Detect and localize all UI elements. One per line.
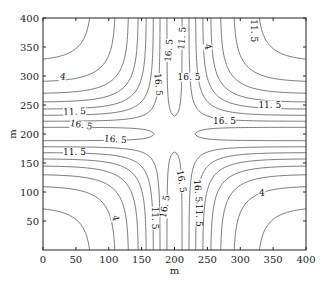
contour-line <box>43 18 306 250</box>
y-tick-label: 400 <box>20 13 39 24</box>
y-tick-label: 50 <box>26 216 39 227</box>
contour-line <box>43 18 306 250</box>
contour-label: 4 <box>259 188 265 198</box>
contour-label: 11. 5 <box>63 106 87 117</box>
contour-labels: 411. 516. 516. 511. 516. 511. 516. 5411.… <box>58 19 281 230</box>
contour-lines <box>43 18 306 250</box>
contour-chart: 411. 516. 516. 511. 516. 511. 516. 5411.… <box>0 0 327 283</box>
contour-label: 16. 5 <box>153 73 165 97</box>
contour-label: 16. 5 <box>178 72 201 82</box>
y-tick-label: 200 <box>20 129 39 140</box>
x-tick-label: 150 <box>132 254 151 265</box>
contour-label: 11. 5 <box>258 100 281 110</box>
contour-label: 16. 5 <box>163 38 175 62</box>
contour-label: 16. 5 <box>175 169 189 194</box>
plot-frame <box>43 18 306 250</box>
x-tick-label: 100 <box>99 254 118 265</box>
x-tick-label: 50 <box>70 254 83 265</box>
contour-label: 16. 5 <box>192 179 204 203</box>
x-axis-ticks: 050100150200250300350400 <box>40 18 316 265</box>
contour-label: 11. 5 <box>194 204 204 227</box>
x-tick-label: 200 <box>165 254 184 265</box>
x-tick-label: 350 <box>264 254 283 265</box>
contour-line <box>43 18 306 250</box>
contour-label: 16. 5 <box>158 194 172 219</box>
x-tick-label: 300 <box>231 254 250 265</box>
contour-line <box>43 18 306 250</box>
y-tick-label: 250 <box>20 100 39 111</box>
y-tick-label: 150 <box>20 158 39 169</box>
contour-line <box>43 18 306 250</box>
contour-label: 11. 5 <box>176 26 188 50</box>
contour-label: 11. 5 <box>249 19 259 42</box>
contour-label: 16. 5 <box>104 133 128 145</box>
contour-line <box>43 18 306 250</box>
contour-line <box>43 18 306 250</box>
y-axis-label: m <box>7 129 18 139</box>
y-tick-label: 300 <box>20 71 39 82</box>
y-tick-label: 350 <box>20 42 39 53</box>
x-tick-label: 0 <box>40 254 46 265</box>
x-tick-label: 400 <box>296 254 315 265</box>
contour-label: 16. 5 <box>213 116 236 126</box>
contour-label: 11. 5 <box>63 147 86 157</box>
x-tick-label: 250 <box>198 254 217 265</box>
x-axis-label: m <box>170 265 180 276</box>
contour-line <box>43 18 306 250</box>
contour-label: 16. 5 <box>69 118 94 132</box>
y-tick-label: 100 <box>20 187 39 198</box>
